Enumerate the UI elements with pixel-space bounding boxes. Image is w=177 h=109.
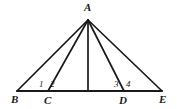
- figure-canvas: [0, 0, 177, 109]
- angle-label-2: 2: [50, 80, 55, 89]
- side-segment-AE: [88, 20, 162, 91]
- vertex-label-A: A: [84, 2, 91, 13]
- vertex-label-E: E: [159, 94, 166, 105]
- vertex-label-D: D: [119, 95, 127, 106]
- angle-label-1: 1: [39, 80, 44, 89]
- angle-label-3: 3: [114, 80, 119, 89]
- vertex-label-C: C: [44, 95, 51, 106]
- angle-label-4: 4: [126, 80, 131, 89]
- vertex-label-B: B: [11, 94, 18, 105]
- geometry-figure: A B C D E 1 2 3 4: [0, 0, 177, 109]
